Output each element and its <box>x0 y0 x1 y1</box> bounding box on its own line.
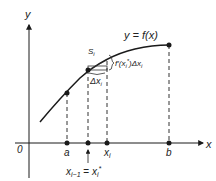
brace-label: f′(xi*)Δxi <box>115 58 143 69</box>
segment-label: Si <box>88 47 95 57</box>
point-axis-xi-minus-1 <box>86 141 91 146</box>
curve-label: y = f(x) <box>123 29 158 41</box>
label-xi: xi <box>103 147 111 159</box>
label-b: b <box>166 147 172 158</box>
label-xi-minus-1-eq-xi-star: xi−1 = xi* <box>65 165 102 178</box>
point-axis-a <box>65 141 70 146</box>
increment-brace <box>89 73 105 75</box>
origin-label: 0 <box>17 144 23 155</box>
tangent-segment <box>88 60 107 70</box>
label-a: a <box>64 147 70 158</box>
point-curve-b <box>167 43 172 48</box>
y-axis-label: y <box>24 8 32 20</box>
increment-label: Δxi <box>89 76 103 87</box>
curve-f <box>40 45 169 122</box>
point-axis-b <box>167 141 172 146</box>
point-curve-a <box>65 91 70 96</box>
point-curve-xi-minus-1 <box>86 68 91 73</box>
point-axis-xi <box>105 141 110 146</box>
x-axis-label: x <box>205 138 212 150</box>
diagram-canvas: y x 0 y = f(x) a xi b xi−1 = xi* Si Δxi … <box>0 0 216 181</box>
